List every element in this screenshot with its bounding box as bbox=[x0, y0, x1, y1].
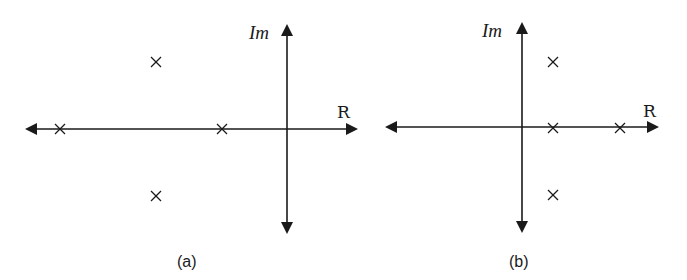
arrow-down-icon bbox=[281, 222, 293, 234]
arrow-left-icon bbox=[25, 123, 37, 135]
arrow-up-icon bbox=[516, 22, 528, 34]
arrow-down-icon bbox=[516, 221, 528, 233]
pole-marker-icon bbox=[151, 191, 161, 201]
pole-marker-icon bbox=[615, 123, 625, 133]
real-axis-label: R bbox=[643, 101, 657, 121]
caption-a: (a) bbox=[177, 253, 197, 270]
real-axis-label: R bbox=[337, 102, 351, 122]
caption-b: (b) bbox=[509, 253, 529, 270]
panel-a: Im R (a) bbox=[25, 22, 358, 270]
arrow-right-icon bbox=[346, 123, 358, 135]
imag-axis-label: Im bbox=[481, 20, 502, 41]
arrow-up-icon bbox=[281, 24, 293, 36]
panel-b: Im R (b) bbox=[385, 20, 659, 270]
arrow-left-icon bbox=[385, 121, 397, 133]
pole-marker-icon bbox=[548, 57, 558, 67]
pole-marker-icon bbox=[548, 123, 558, 133]
pole-marker-icon bbox=[548, 190, 558, 200]
imag-axis-label: Im bbox=[248, 22, 269, 43]
pole-marker-icon bbox=[151, 57, 161, 67]
arrow-right-icon bbox=[647, 121, 659, 133]
pole-plots-figure: Im R (a) Im R bbox=[0, 0, 687, 280]
